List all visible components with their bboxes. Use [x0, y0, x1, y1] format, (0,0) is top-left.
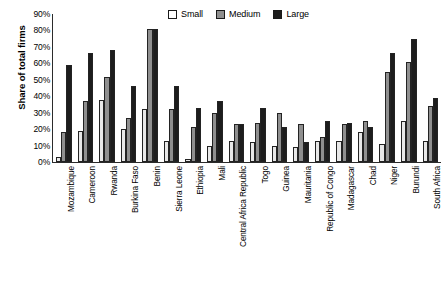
y-axis-tick-label: 80% [22, 26, 50, 35]
bar-groups [53, 14, 441, 162]
x-axis-label-cell: Mali [203, 164, 225, 282]
bar-large [433, 98, 438, 162]
bar-group [420, 14, 442, 162]
bar-large [368, 127, 373, 162]
x-axis-label-cell: Republic of Congo [311, 164, 333, 282]
x-axis-label-cell: South Africa [419, 164, 441, 282]
x-axis-label-cell: Rwanda [95, 164, 117, 282]
x-axis-label-cell: Cameroon [74, 164, 96, 282]
bar-group [75, 14, 97, 162]
x-axis-label-cell: Central Africa Republic [225, 164, 247, 282]
y-axis-tick-label: 90% [22, 10, 50, 19]
bar-group [204, 14, 226, 162]
x-axis-label-cell: Niger [375, 164, 397, 282]
bar-large [347, 123, 352, 162]
x-axis-label-cell: Chad [354, 164, 376, 282]
y-axis-tick-label: 30% [22, 108, 50, 117]
bar-large [325, 121, 330, 162]
plot-area [52, 14, 441, 163]
y-axis-tick-label: 40% [22, 92, 50, 101]
bar-group [226, 14, 248, 162]
y-axis-tick-label: 70% [22, 43, 50, 52]
y-axis-tick-label: 10% [22, 141, 50, 150]
bar-large [217, 101, 222, 162]
bar-large [66, 65, 71, 162]
x-axis-label-cell: Mozambique [52, 164, 74, 282]
y-axis-tick-label: 50% [22, 76, 50, 85]
bar-group [182, 14, 204, 162]
bar-group [312, 14, 334, 162]
bar-group [96, 14, 118, 162]
x-axis-label-cell: Ethiopia [181, 164, 203, 282]
x-axis-label-cell: Togo [246, 164, 268, 282]
bar-large [282, 127, 287, 162]
bar-large [411, 39, 416, 162]
bar-group [247, 14, 269, 162]
x-axis-label-cell: Guinea [268, 164, 290, 282]
bar-group [333, 14, 355, 162]
x-axis-label-cell: Benin [138, 164, 160, 282]
bar-large [390, 53, 395, 162]
bar-group [161, 14, 183, 162]
x-axis-label-cell: Burkina Faso [117, 164, 139, 282]
bar-large [88, 53, 93, 162]
bar-large [131, 86, 136, 162]
x-axis-label-cell: Madagascar [332, 164, 354, 282]
bar-group [53, 14, 75, 162]
y-axis-tick-labels: 90%80%70%60%50%40%30%20%10%0% [22, 14, 50, 162]
y-axis-tick-label: 0% [22, 158, 50, 167]
bar-large [174, 86, 179, 162]
bar-group [355, 14, 377, 162]
bar-large [196, 108, 201, 162]
bar-large [304, 142, 309, 162]
x-axis-label-cell: Sierra Leone [160, 164, 182, 282]
bar-large [153, 29, 158, 162]
bar-group [118, 14, 140, 162]
bar-chart: Small Medium Large Share of total firms … [0, 0, 444, 283]
bar-group [398, 14, 420, 162]
y-axis-tick-label: 60% [22, 59, 50, 68]
bar-group [269, 14, 291, 162]
x-axis-tick-label: South Africa [433, 166, 441, 209]
bar-large [260, 108, 265, 162]
bar-large [239, 124, 244, 162]
bar-large [110, 50, 115, 162]
x-axis-tick-labels: MozambiqueCameroonRwandaBurkina FasoBeni… [52, 164, 440, 282]
x-axis-label-cell: Mauritania [289, 164, 311, 282]
x-axis-label-cell: Burundi [397, 164, 419, 282]
bar-group [139, 14, 161, 162]
bar-group [290, 14, 312, 162]
bar-group [376, 14, 398, 162]
y-axis-tick-label: 20% [22, 125, 50, 134]
